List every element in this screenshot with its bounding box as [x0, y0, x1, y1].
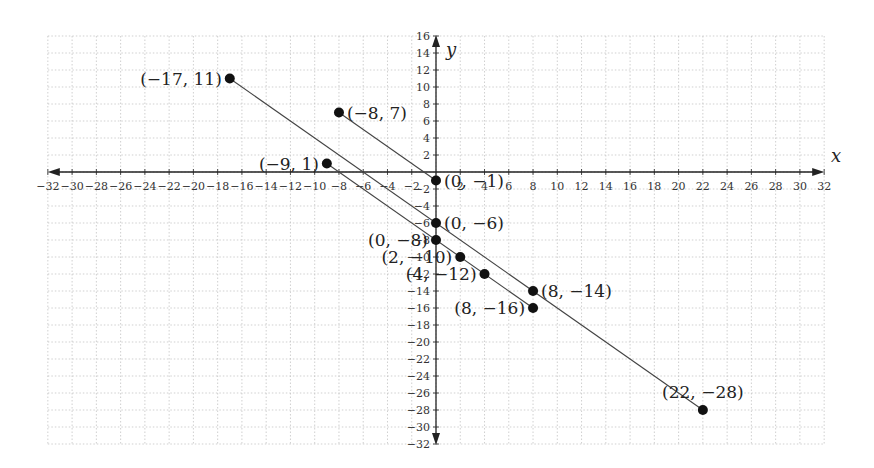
- data-point-dot: [225, 74, 235, 84]
- y-tick-label: 6: [423, 115, 430, 128]
- y-tick-label: −26: [407, 387, 430, 400]
- data-point-dot: [334, 108, 344, 118]
- x-axis-arrow-left-icon: [48, 168, 60, 176]
- x-tick-label: −24: [133, 180, 156, 193]
- y-tick-label: −20: [407, 336, 430, 349]
- y-tick-label: −4: [414, 200, 430, 213]
- y-axis-arrow-up-icon: [432, 35, 440, 47]
- x-tick-label: 28: [769, 180, 783, 193]
- y-tick-label: −2: [414, 183, 430, 196]
- x-tick-label: 20: [672, 180, 686, 193]
- y-tick-label: −18: [407, 319, 430, 332]
- y-tick-label: −30: [407, 421, 430, 434]
- data-point-dot: [431, 235, 441, 245]
- y-tick-label: −16: [407, 302, 430, 315]
- data-point-label: (−17, 11): [140, 69, 222, 89]
- x-tick-label: −10: [303, 180, 326, 193]
- data-point-label: (8, −14): [541, 281, 612, 301]
- x-tick-label: 10: [550, 180, 564, 193]
- y-tick-label: −6: [414, 217, 430, 230]
- data-point-dot: [698, 405, 708, 415]
- line-segment-1: [230, 79, 703, 411]
- y-tick-label: 10: [416, 81, 430, 94]
- x-tick-label: 14: [599, 180, 613, 193]
- x-tick-label: −32: [36, 180, 59, 193]
- data-point-dot: [322, 159, 332, 169]
- x-tick-label: −22: [158, 180, 181, 193]
- x-tick-label: −30: [60, 180, 83, 193]
- x-axis-arrow-right-icon: [812, 168, 824, 176]
- x-tick-label: 12: [575, 180, 589, 193]
- y-axis-arrow-down-icon: [432, 433, 440, 445]
- x-tick-label: 8: [530, 180, 537, 193]
- y-tick-label: 14: [416, 47, 430, 60]
- x-tick-label: −12: [279, 180, 302, 193]
- data-point-dot: [528, 286, 538, 296]
- data-point-dot: [431, 218, 441, 228]
- x-tick-label: −16: [230, 180, 253, 193]
- line-segments: [230, 79, 703, 411]
- x-tick-label: 18: [647, 180, 661, 193]
- y-tick-label: 4: [423, 132, 430, 145]
- x-tick-label: 22: [696, 180, 710, 193]
- y-tick-label: 12: [416, 64, 430, 77]
- y-tick-label: −22: [407, 353, 430, 366]
- x-tick-label: 26: [744, 180, 758, 193]
- x-tick-label: −8: [331, 180, 347, 193]
- data-point-dot: [455, 252, 465, 262]
- x-tick-label: −4: [379, 180, 395, 193]
- x-tick-label: −14: [255, 180, 278, 193]
- x-tick-label: 32: [817, 180, 831, 193]
- y-tick-label: −28: [407, 404, 430, 417]
- data-point-dot: [480, 269, 490, 279]
- x-tick-label: −18: [206, 180, 229, 193]
- x-axis-label: x: [831, 145, 841, 166]
- x-tick-label: 6: [505, 180, 512, 193]
- y-tick-label: −24: [407, 370, 430, 383]
- y-tick-label: −14: [407, 285, 430, 298]
- x-tick-label: 24: [720, 180, 734, 193]
- data-point-label: (−8, 7): [347, 103, 407, 123]
- data-point-label: (−9, 1): [259, 154, 319, 174]
- x-tick-label: −26: [109, 180, 132, 193]
- x-tick-label: −6: [355, 180, 371, 193]
- y-tick-label: 16: [416, 30, 430, 43]
- data-point-dot: [528, 303, 538, 313]
- x-tick-label: −20: [182, 180, 205, 193]
- data-point-label: (22, −28): [662, 382, 744, 402]
- y-axis-label: y: [445, 39, 457, 60]
- data-point-label: (0, −6): [444, 213, 504, 233]
- data-point-dot: [431, 176, 441, 186]
- data-point-label: (8, −16): [454, 298, 525, 318]
- y-tick-label: 8: [423, 98, 430, 111]
- y-tick-label: 2: [423, 149, 430, 162]
- x-tick-label: −28: [85, 180, 108, 193]
- x-tick-label: 30: [793, 180, 807, 193]
- x-tick-label: 16: [623, 180, 637, 193]
- coordinate-plane-chart: −32−30−28−26−24−22−20−18−16−14−12−10−8−6…: [0, 0, 874, 468]
- y-tick-label: −32: [407, 438, 430, 451]
- data-point-label: (4, −12): [406, 264, 477, 284]
- data-points: (−17, 11)(−8, 7)(−9, 1)(0, −1)(0, −6)(0,…: [140, 69, 743, 416]
- data-point-label: (0, −1): [444, 171, 504, 191]
